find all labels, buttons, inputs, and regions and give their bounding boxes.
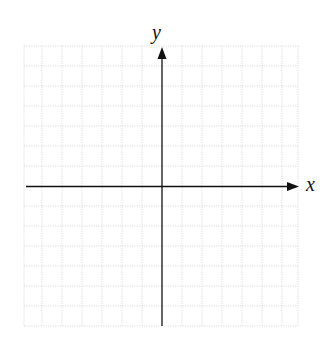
coordinate-grid-svg bbox=[0, 0, 329, 348]
x-axis-label: x bbox=[306, 174, 315, 194]
coordinate-plane: y x bbox=[0, 0, 329, 348]
x-axis-arrow-icon bbox=[287, 182, 299, 191]
y-axis-arrow-icon bbox=[158, 47, 167, 59]
y-axis-label: y bbox=[152, 22, 161, 42]
